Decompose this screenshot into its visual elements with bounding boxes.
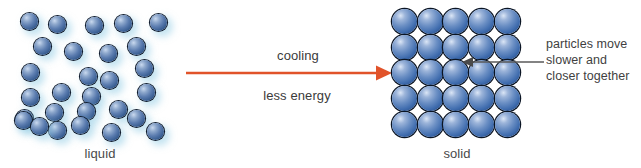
solid-particle	[469, 112, 494, 137]
annotation-line-3: closer together	[546, 68, 641, 84]
leader-arrow-head	[462, 57, 473, 67]
liquid-particle	[15, 112, 32, 129]
solid-particle	[418, 86, 443, 111]
solid-particle	[418, 9, 443, 34]
solid-particle	[392, 9, 417, 34]
liquid-particle	[22, 89, 39, 106]
solid-particle	[443, 86, 468, 111]
liquid-particle	[53, 84, 70, 101]
liquid-particle	[49, 122, 66, 139]
solid-caption: solid	[402, 146, 512, 161]
solid-particle	[418, 35, 443, 60]
liquid-particle	[147, 123, 164, 140]
liquid-particle	[136, 60, 153, 77]
annotation-leader-line	[462, 53, 544, 71]
solid-particle	[392, 35, 417, 60]
cooling-arrow-svg	[186, 62, 394, 84]
solid-particle	[469, 9, 494, 34]
annotation-line-2: slower and	[546, 52, 641, 68]
solid-particle	[392, 112, 417, 137]
liquid-particle	[100, 45, 117, 62]
liquid-particle	[101, 72, 118, 89]
annotation-line-1: particles move	[546, 36, 641, 52]
liquid-particle	[46, 104, 63, 121]
liquid-particle	[80, 68, 97, 85]
solid-particle-lattice	[392, 9, 520, 137]
solid-particle	[495, 9, 520, 34]
liquid-particle	[86, 17, 103, 34]
liquid-particle	[110, 101, 127, 118]
solid-particle	[495, 86, 520, 111]
liquid-particle-field	[0, 0, 190, 150]
solid-particle	[418, 112, 443, 137]
liquid-particle	[34, 38, 51, 55]
solid-particle	[495, 112, 520, 137]
annotation-text: particles move slower and closer togethe…	[546, 36, 641, 84]
solid-particle	[392, 60, 417, 85]
liquid-particle	[49, 16, 66, 33]
solid-particle	[443, 9, 468, 34]
solid-particle	[443, 112, 468, 137]
phase-change-diagram: cooling less energy particles move slowe…	[0, 0, 641, 168]
liquid-particle	[150, 14, 167, 31]
solid-particle	[469, 86, 494, 111]
cooling-arrow	[186, 62, 394, 84]
liquid-particle	[115, 15, 132, 32]
liquid-caption: liquid	[45, 146, 155, 161]
liquid-particle	[31, 118, 48, 135]
arrow-head	[376, 66, 392, 81]
liquid-particle	[103, 124, 120, 141]
liquid-particle	[21, 13, 38, 30]
liquid-particle	[128, 38, 145, 55]
less-energy-label: less energy	[222, 88, 372, 103]
liquid-particle	[65, 43, 82, 60]
solid-particle	[392, 86, 417, 111]
liquid-particle	[72, 117, 89, 134]
liquid-particle	[128, 110, 145, 127]
liquid-particle	[138, 84, 155, 101]
leader-line-svg	[462, 53, 544, 71]
solid-particle	[418, 60, 443, 85]
liquid-particle	[22, 64, 39, 81]
cooling-label: cooling	[228, 48, 368, 63]
